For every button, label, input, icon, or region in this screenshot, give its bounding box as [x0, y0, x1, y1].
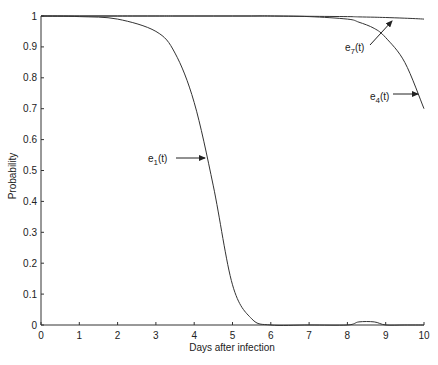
y-tick-label: 0.7 [23, 103, 37, 114]
x-axis-label: Days after infection [189, 342, 275, 353]
y-tick-label: 0.3 [23, 227, 37, 238]
series-line-e4t [41, 16, 424, 109]
probability-chart: 012345678910 00.10.20.30.40.50.60.70.80.… [0, 0, 438, 365]
curves [41, 16, 424, 325]
x-tick-label: 1 [77, 330, 83, 341]
annotation-label: e1(t) [148, 153, 167, 167]
x-tick-label: 7 [306, 330, 312, 341]
x-tick-label: 3 [153, 330, 159, 341]
x-tick-label: 8 [345, 330, 351, 341]
axes [41, 16, 424, 325]
annotation-label: e7(t) [345, 42, 364, 56]
x-tick-label: 2 [115, 330, 121, 341]
annotations: e1(t)e7(t)e4(t) [148, 21, 418, 167]
y-tick-label: 0.2 [23, 258, 37, 269]
y-tick-label: 0.5 [23, 165, 37, 176]
x-tick-label: 9 [383, 330, 389, 341]
y-tick-label: 0.6 [23, 134, 37, 145]
x-tick-label: 10 [418, 330, 430, 341]
y-tick-label: 0.9 [23, 41, 37, 52]
x-tick-label: 4 [191, 330, 197, 341]
y-tick-label: 0.1 [23, 289, 37, 300]
x-tick-label: 0 [38, 330, 44, 341]
annotation-label: e4(t) [370, 91, 389, 105]
y-tick-label: 0.4 [23, 196, 37, 207]
x-tick-label: 5 [230, 330, 236, 341]
series-line-e1t [41, 16, 424, 325]
y-axis-label: Probability [7, 153, 18, 200]
y-tick-label: 0.8 [23, 72, 37, 83]
x-tick-label: 6 [268, 330, 274, 341]
y-tick-label: 1 [31, 11, 37, 22]
y-tick-label: 0 [31, 320, 37, 331]
